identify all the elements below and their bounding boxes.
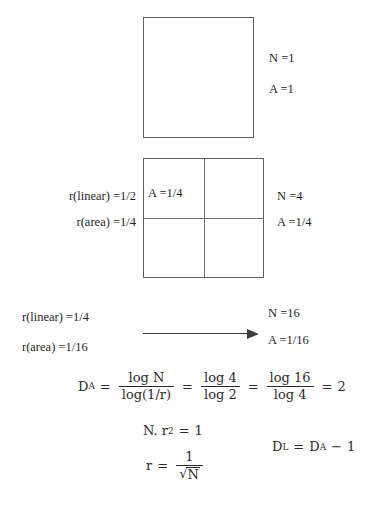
stage-two-label-r-linear: r(linear) =1/2 bbox=[0, 190, 136, 203]
eq-da-equals-1: = bbox=[100, 379, 111, 394]
eq-da-equals-2: = bbox=[182, 379, 193, 394]
eq-da-equals-4: = bbox=[322, 379, 333, 394]
square-stage-one bbox=[143, 17, 254, 138]
equation-fractal-dimension-area: DA = log N log(1/r) = log 4 log 2 = log … bbox=[78, 371, 346, 401]
eq-da-fraction-3-denominator: log 4 bbox=[271, 387, 310, 402]
equation-n-r-squared: N. r2 = 1 bbox=[143, 423, 203, 438]
eq-dl-equals: = bbox=[293, 439, 304, 454]
equation-r-equals-one-over-sqrt-n: r = 1 √ N bbox=[146, 450, 206, 481]
stage-two-cell-label: A =1/4 bbox=[148, 187, 183, 200]
eq-r-radicand: N bbox=[186, 467, 199, 482]
stage-one-label-n: N =1 bbox=[269, 52, 294, 65]
eq-nr2-lhs: N. r bbox=[143, 423, 168, 438]
equation-fractal-dimension-linear: DL = DA − 1 bbox=[272, 439, 355, 454]
square-stage-two bbox=[143, 158, 264, 278]
eq-r-denominator-radical: √ N bbox=[176, 466, 203, 482]
eq-da-fraction-3: log 16 log 4 bbox=[267, 371, 314, 401]
right-arrow-icon bbox=[143, 328, 259, 340]
stage-two-label-r-area: r(area) =1/4 bbox=[0, 216, 136, 229]
stage-two-label-n: N =4 bbox=[277, 190, 302, 203]
eq-da-fraction-1-numerator: log N bbox=[125, 371, 167, 386]
eq-nr2-equals: = bbox=[179, 423, 190, 438]
eq-dl-rhs: D bbox=[309, 439, 319, 454]
stage-three-label-n: N =16 bbox=[268, 307, 300, 320]
eq-nr2-rhs: 1 bbox=[195, 423, 203, 438]
stage-two-label-a: A =1/4 bbox=[277, 216, 312, 229]
eq-da-fraction-1: log N log(1/r) bbox=[119, 371, 174, 401]
eq-da-equals-3: = bbox=[248, 379, 259, 394]
eq-dl-one: 1 bbox=[347, 439, 355, 454]
eq-r-numerator: 1 bbox=[182, 450, 196, 465]
eq-r-lhs: r bbox=[146, 458, 152, 473]
square-divider-horizontal bbox=[144, 218, 263, 219]
stage-three-label-a: A =1/16 bbox=[268, 334, 309, 347]
stage-three-label-r-linear: r(linear) =1/4 bbox=[22, 311, 89, 324]
arrow-shaft bbox=[143, 333, 247, 334]
stage-three-label-r-area: r(area) =1/16 bbox=[22, 341, 88, 354]
eq-r-equals: = bbox=[157, 458, 168, 473]
eq-da-fraction-2: log 4 log 2 bbox=[201, 371, 240, 401]
stage-one-label-a: A =1 bbox=[269, 83, 294, 96]
eq-r-fraction: 1 √ N bbox=[176, 450, 203, 481]
eq-dl-lhs: D bbox=[272, 439, 282, 454]
eq-da-fraction-2-numerator: log 4 bbox=[201, 371, 240, 386]
eq-da-fraction-1-denominator: log(1/r) bbox=[119, 387, 174, 402]
arrow-head bbox=[247, 329, 259, 339]
eq-da-fraction-3-numerator: log 16 bbox=[267, 371, 314, 386]
eq-da-result: 2 bbox=[337, 379, 345, 394]
figure-canvas: N =1 A =1 A =1/4 r(linear) =1/2 r(area) … bbox=[0, 0, 374, 524]
eq-da-lhs: D bbox=[78, 379, 88, 394]
eq-dl-minus: − bbox=[331, 439, 342, 454]
eq-da-fraction-2-denominator: log 2 bbox=[201, 387, 240, 402]
